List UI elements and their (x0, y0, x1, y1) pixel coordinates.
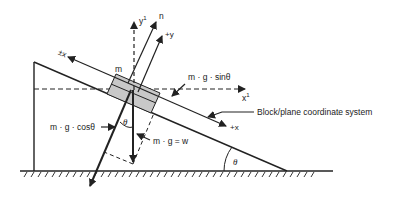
hatch-mark (227, 172, 230, 177)
hatch-mark (129, 172, 132, 177)
hatch-mark (255, 172, 258, 177)
hatch-mark (304, 172, 307, 177)
hatch-mark (108, 172, 111, 177)
hatch-mark (311, 172, 314, 177)
hatch-mark (297, 172, 300, 177)
mass-label: m (115, 64, 122, 74)
normal-vector (128, 22, 156, 83)
ground (20, 171, 333, 177)
hatch-mark (185, 172, 188, 177)
hatch-mark (122, 172, 125, 177)
incline-wedge (34, 62, 287, 171)
pos-y-label: +y (165, 30, 174, 39)
hatch-mark (38, 172, 41, 177)
hatch-mark (80, 172, 83, 177)
projection-dashed-2 (104, 152, 133, 164)
hatch-mark (283, 172, 286, 177)
pos-x-label: +x (230, 123, 239, 132)
normal-label: n (159, 11, 164, 21)
hatch-mark (66, 172, 69, 177)
x-prime-label: x1 (242, 92, 250, 103)
hatch-mark (115, 172, 118, 177)
incline-angle-arc (224, 147, 232, 171)
hatch-mark (157, 172, 160, 177)
coordinate-system-label: Block/plane coordinate system (257, 107, 372, 117)
incline-surface (34, 62, 287, 171)
hatch-mark (143, 172, 146, 177)
coordinate-system-pointer (208, 112, 254, 117)
hatch-mark (59, 172, 62, 177)
hatch-mark (45, 172, 48, 177)
hatch-mark (290, 172, 293, 177)
hatch-mark (101, 172, 104, 177)
neg-x-axis (68, 57, 137, 87)
hatch-mark (248, 172, 251, 177)
inclined-plane-diagram: θ x1 m ±x +x y1 n +y m · g · sinθ θ m · … (0, 0, 401, 199)
hatch-mark (150, 172, 153, 177)
neg-x-label: ±x (57, 48, 68, 60)
y-prime-label: y1 (139, 15, 147, 26)
weight-pointer (137, 134, 150, 140)
sin-component-label: m · g · sinθ (188, 72, 231, 82)
hatch-mark (52, 172, 55, 177)
hatch-mark (262, 172, 265, 177)
weight-label: m · g = w (153, 136, 189, 146)
hatch-mark (276, 172, 279, 177)
incline-angle-label: θ (233, 157, 238, 167)
hatch-mark (31, 172, 34, 177)
hatch-mark (24, 172, 27, 177)
hatch-mark (73, 172, 76, 177)
hatch-mark (234, 172, 237, 177)
block-angle-label: θ (123, 117, 128, 127)
ground-hatching (24, 172, 314, 177)
hatch-mark (213, 172, 216, 177)
projection-dashed-1 (133, 113, 154, 164)
hatch-mark (136, 172, 139, 177)
sin-component-pointer (172, 84, 185, 96)
hatch-mark (87, 172, 90, 177)
hatch-mark (178, 172, 181, 177)
cos-component-label: m · g · cosθ (50, 122, 95, 132)
hatch-mark (164, 172, 167, 177)
hatch-mark (171, 172, 174, 177)
hatch-mark (199, 172, 202, 177)
hatch-mark (269, 172, 272, 177)
hatch-mark (206, 172, 209, 177)
hatch-mark (220, 172, 223, 177)
hatch-mark (192, 172, 195, 177)
hatch-mark (241, 172, 244, 177)
pos-y-axis (138, 36, 162, 92)
